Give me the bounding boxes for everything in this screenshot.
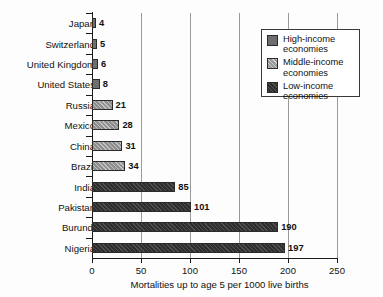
y-tick-brazil [86, 156, 92, 157]
bar-switzerland [92, 39, 97, 49]
category-label-russia: Russia [66, 99, 95, 110]
bar-value-japan: 4 [99, 18, 104, 28]
category-label-pakistan: Pakistan [58, 201, 95, 212]
legend-item-high: High-incomeeconomies [267, 34, 355, 54]
bar-burundi [92, 222, 278, 232]
x-tick-100 [190, 258, 191, 263]
legend-swatch-high-icon [267, 35, 278, 46]
bar-pakistan [92, 202, 191, 212]
legend-label-line2: economies [283, 91, 333, 101]
bar-value-mexico: 28 [122, 120, 132, 130]
y-tick-pakistan [86, 197, 92, 198]
legend-label-middle: Middle-incomeeconomies [283, 57, 343, 77]
x-tick-label-150: 150 [231, 265, 247, 276]
y-tick-china [86, 136, 92, 137]
category-label-burundi: Burundi [62, 222, 95, 233]
x-tick-label-0: 0 [89, 265, 94, 276]
bar-japan [92, 18, 96, 28]
gridline-150 [239, 13, 240, 258]
x-tick-label-50: 50 [136, 265, 147, 276]
legend-swatch-low-icon [267, 82, 278, 93]
x-axis-title-text: Mortalities up to age 5 per 1000 live bi… [74, 279, 308, 290]
mortality-bar-chart: JapanSwitzerlandUnited KingdomUnited Sta… [0, 0, 383, 297]
gridline-50 [141, 13, 142, 258]
y-tick-russia [86, 95, 92, 96]
bar-nigeria [92, 243, 285, 253]
category-label-united-states: United States [37, 79, 95, 90]
legend: High-incomeeconomiesMiddle-incomeeconomi… [261, 29, 360, 97]
y-tick-united-kingdom [86, 54, 92, 55]
x-axis-title: Mortalities up to age 5 per 1000 live bi… [0, 279, 383, 290]
legend-label-low: Low-incomeeconomies [283, 81, 333, 101]
bar-united-kingdom [92, 59, 98, 69]
bar-value-switzerland: 5 [100, 39, 105, 49]
bar-value-nigeria: 197 [288, 243, 304, 253]
legend-label-line1: Low-income [283, 81, 333, 91]
y-tick-united-states [86, 74, 92, 75]
gridline-100 [190, 13, 191, 258]
x-tick-250 [337, 258, 338, 263]
y-tick-japan [86, 13, 92, 14]
x-tick-0 [92, 258, 93, 263]
legend-item-low: Low-incomeeconomies [267, 81, 355, 101]
bar-value-brazil: 34 [128, 161, 138, 171]
bar-united-states [92, 79, 100, 89]
bar-value-russia: 21 [116, 100, 126, 110]
bar-value-united-kingdom: 6 [101, 59, 106, 69]
x-tick-label-250: 250 [329, 265, 345, 276]
x-tick-label-200: 200 [280, 265, 296, 276]
bar-brazil [92, 161, 125, 171]
x-tick-200 [288, 258, 289, 263]
legend-label-line1: High-income [283, 34, 335, 44]
category-label-switzerland: Switzerland [45, 38, 95, 49]
category-label-mexico: Mexico [65, 120, 95, 131]
bar-value-china: 31 [125, 141, 135, 151]
legend-label-line2: economies [283, 68, 343, 78]
x-tick-label-100: 100 [182, 265, 198, 276]
x-tick-50 [141, 258, 142, 263]
legend-swatch-middle-icon [267, 58, 278, 69]
bar-value-india: 85 [178, 182, 188, 192]
y-tick-india [86, 176, 92, 177]
legend-item-middle: Middle-incomeeconomies [267, 57, 355, 77]
bar-mexico [92, 120, 119, 130]
y-tick-burundi [86, 217, 92, 218]
bar-russia [92, 100, 113, 110]
category-label-united-kingdom: United Kingdom [27, 59, 95, 70]
y-tick-nigeria [86, 238, 92, 239]
legend-label-high: High-incomeeconomies [283, 34, 335, 54]
x-axis-line [92, 258, 338, 259]
legend-label-line1: Middle-income [283, 57, 343, 67]
bar-india [92, 182, 175, 192]
bar-value-pakistan: 101 [194, 202, 210, 212]
y-tick-mexico [86, 115, 92, 116]
bar-value-united-states: 8 [103, 79, 108, 89]
category-label-nigeria: Nigeria [65, 242, 95, 253]
legend-label-line2: economies [283, 44, 335, 54]
x-tick-150 [239, 258, 240, 263]
bar-value-burundi: 190 [281, 222, 297, 232]
y-tick-switzerland [86, 33, 92, 34]
bar-china [92, 141, 122, 151]
